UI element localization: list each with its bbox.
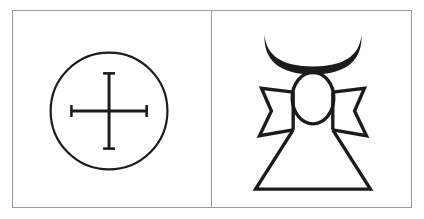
crescent-ankh-drawing bbox=[212, 11, 411, 207]
oval-loop-shape bbox=[292, 72, 334, 123]
right-arm-shape bbox=[333, 88, 367, 136]
crescent-moon-shape bbox=[264, 35, 361, 75]
figure-root bbox=[0, 0, 424, 219]
left-arm-shape bbox=[260, 88, 294, 136]
skirt-shape bbox=[256, 92, 371, 189]
crescent-ankh-panel bbox=[211, 10, 412, 208]
sun-cross-panel bbox=[12, 10, 212, 208]
sun-cross-drawing bbox=[13, 11, 211, 207]
